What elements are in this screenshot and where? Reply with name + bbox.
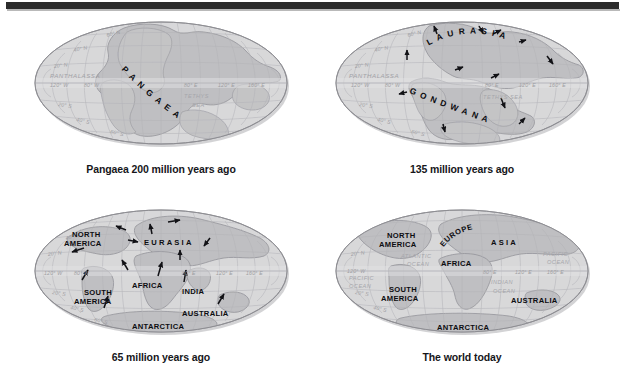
lon-label-160e: 160° E [547,269,564,275]
landmass-label-australia: AUSTRALIA [182,309,229,318]
map-panel-65ma: 40° N 20° N 20° S 40° S 60° S 120° W 80°… [32,208,290,338]
ocean-label-panthalassa: PANTHALASSA [50,72,100,79]
lon-label-160e: 160° E [246,270,263,276]
caption-pangaea: Pangaea 200 million years ago [32,163,290,175]
map-svg-today: 20° N 20° S 40° S 120° W 80° E 120° E 16… [333,208,591,338]
landmass-label-south-america-l2: AMERICA [74,297,112,306]
lon-label-120e: 120° E [519,82,536,88]
lon-label-120w: 120° W [44,270,63,276]
lon-label-120e: 120° E [218,82,235,88]
ocean-label-atlantic-l1: ATLANTIC [400,253,432,259]
ocean-label-atlantic-l2: OCEAN [407,261,430,267]
landmass-label-south-america-l2: AMERICA [381,294,419,303]
landmass-label-africa: AFRICA [132,281,163,290]
lon-label-120w: 120° W [347,268,366,274]
lon-label-120e: 120° E [515,269,532,275]
ocean-label-pacific-east-l2: OCEAN [547,259,570,265]
landmass-label-north-america-l1: NORTH [387,231,416,240]
lon-label-120w: 120° W [50,82,69,88]
lon-label-80w: 80° W [74,270,90,276]
map-svg-65ma: 40° N 20° N 20° S 40° S 60° S 120° W 80°… [32,208,290,338]
map-panel-135ma: 60° N 40° N 20° N 20° S 40° S 60° S 120°… [333,20,591,150]
lon-label-120e: 120° E [216,270,233,276]
map-svg-135ma: 60° N 40° N 20° N 20° S 40° S 60° S 120°… [333,20,591,150]
landmass-label-north-america-l1: NORTH [72,230,101,239]
ocean-label-indian-l2: OCEAN [493,288,516,294]
landmass-label-africa: AFRICA [441,259,472,268]
sea-label-tethys: TETHYS SEA [483,94,523,100]
ocean-label-panthalassa: PANTHALASSA [349,72,399,79]
sea-label-tethys-line1: TETHYS [184,93,209,99]
ocean-label-pacific-west-l1: PACIFIC [349,275,375,281]
landmass-label-eurasia: EURASIA [144,238,194,247]
landmass-label-north-america-l2: AMERICA [379,240,417,249]
map-panel-pangaea: 60° N 40° N 20° N 20° S 40° S 60° S 120°… [32,20,290,150]
caption-today: The world today [333,351,591,363]
landmass-label-antarctica: ANTARCTICA [132,322,184,331]
landmass-label-south-america-l1: SOUTH [389,285,417,294]
lon-label-80e: 80° E [485,82,499,88]
top-rule-shadow [7,9,620,11]
lon-label-80e: 80° E [182,270,196,276]
sea-label-tethys-line2: SEA [192,102,205,108]
lon-label-80w: 80° W [385,82,401,88]
lon-label-160e: 160° E [248,82,265,88]
landmass-label-asia: ASIA [491,238,518,247]
map-svg-pangaea: 60° N 40° N 20° N 20° S 40° S 60° S 120°… [32,20,290,150]
lon-label-80w: 80° W [84,82,100,88]
map-panel-today: 20° N 20° S 40° S 120° W 80° E 120° E 16… [333,208,591,338]
ocean-label-indian-l1: INDIAN [491,279,513,285]
landmass-label-north-america-l2: AMERICA [64,239,102,248]
landmass-label-antarctica: ANTARCTICA [437,323,489,332]
top-rule [6,2,619,9]
lon-label-80e: 80° E [483,269,497,275]
ocean-label-pacific-east-l1: PACIFIC [543,251,569,257]
caption-65ma: 65 million years ago [32,351,290,363]
lon-label-80e: 80° E [184,82,198,88]
caption-135ma: 135 million years ago [333,163,591,175]
landmass-label-india: INDIA [182,287,204,296]
landmass-label-south-america-l1: SOUTH [84,288,112,297]
ocean-label-pacific-west-l2: OCEAN [349,283,372,289]
lon-label-160e: 160° E [549,82,566,88]
landmass-label-australia: AUSTRALIA [511,296,558,305]
lon-label-120w: 120° W [351,82,370,88]
